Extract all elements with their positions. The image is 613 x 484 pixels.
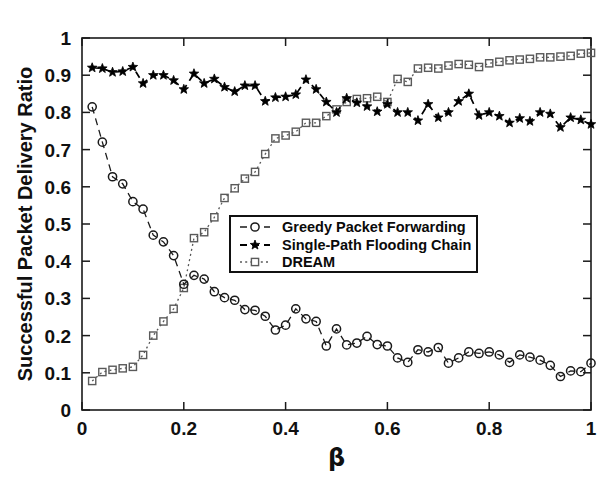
legend-marker-sample	[251, 223, 259, 231]
data-point-marker	[362, 101, 372, 110]
data-point-marker	[271, 326, 279, 334]
data-point-marker	[413, 116, 423, 125]
data-point-marker	[150, 332, 157, 339]
data-point-marker	[292, 128, 299, 135]
data-point-marker	[444, 107, 454, 116]
data-point-marker	[108, 67, 118, 76]
legend-label: DREAM	[282, 254, 335, 270]
y-tick-label: 0.2	[45, 326, 71, 347]
y-tick-label: 0	[60, 400, 71, 421]
data-point-marker	[394, 75, 401, 82]
data-point-marker	[363, 332, 371, 340]
data-point-marker	[372, 107, 382, 116]
y-axis-label: Successful Packet Delivery Ratio	[14, 67, 36, 382]
data-point-marker	[129, 198, 137, 206]
x-tick-label: 0.8	[476, 418, 502, 439]
x-tick-label: 1	[586, 418, 597, 439]
data-point-marker	[495, 111, 505, 120]
data-point-marker	[272, 135, 279, 142]
y-tick-label: 0.5	[45, 214, 72, 235]
data-point-marker	[281, 92, 291, 101]
data-point-marker	[515, 113, 525, 122]
x-tick-label: 0	[77, 418, 88, 439]
data-point-marker	[230, 87, 240, 96]
legend-label: Greedy Packet Forwarding	[282, 219, 466, 235]
legend-label: Single-Path Flooding Chain	[282, 237, 471, 253]
data-point-marker	[484, 107, 494, 116]
data-point-marker	[282, 321, 290, 329]
data-point-marker	[260, 96, 270, 105]
data-point-marker	[170, 252, 178, 260]
data-point-marker	[455, 354, 463, 362]
data-point-marker	[302, 119, 309, 126]
data-point-marker	[323, 113, 330, 120]
chart-plot: 00.10.20.30.40.50.60.70.80.9100.20.40.60…	[0, 0, 613, 484]
y-tick-label: 0.1	[45, 363, 72, 384]
y-tick-label: 0.7	[45, 140, 71, 161]
legend-marker-sample	[251, 258, 258, 265]
data-point-marker	[118, 66, 128, 75]
data-point-marker	[434, 113, 444, 122]
data-point-marker	[322, 342, 330, 350]
data-point-marker	[576, 115, 586, 124]
data-point-marker	[301, 75, 311, 84]
data-point-marker	[282, 132, 289, 139]
data-point-marker	[546, 109, 556, 118]
data-point-marker	[250, 81, 260, 90]
y-tick-label: 1	[60, 28, 71, 49]
x-tick-label: 0.2	[171, 418, 197, 439]
data-point-marker	[474, 110, 484, 119]
data-point-marker	[159, 70, 169, 79]
data-point-marker	[525, 116, 535, 125]
y-tick-label: 0.3	[45, 288, 71, 309]
y-tick-label: 0.4	[45, 251, 72, 272]
data-point-marker	[87, 63, 97, 72]
data-point-marker	[149, 70, 159, 79]
data-point-marker	[201, 229, 208, 236]
data-point-marker	[546, 361, 554, 369]
data-point-marker	[505, 118, 515, 127]
y-tick-label: 0.9	[45, 65, 71, 86]
legend: Greedy Packet ForwardingSingle-Path Floo…	[230, 216, 477, 272]
data-point-marker	[98, 64, 108, 73]
data-point-marker	[313, 119, 320, 126]
x-axis-label: β	[328, 444, 345, 472]
data-point-marker	[444, 359, 452, 367]
y-tick-label: 0.6	[45, 177, 71, 198]
data-point-marker	[139, 205, 147, 213]
series-1	[87, 62, 595, 131]
data-point-marker	[404, 358, 412, 366]
figure-canvas: 00.10.20.30.40.50.60.70.80.9100.20.40.60…	[0, 0, 613, 484]
x-tick-label: 0.6	[374, 418, 400, 439]
y-tick-label: 0.8	[45, 102, 71, 123]
data-point-marker	[403, 107, 413, 116]
data-point-marker	[271, 93, 281, 102]
data-point-marker	[139, 351, 146, 358]
data-point-marker	[128, 62, 138, 71]
x-tick-label: 0.4	[272, 418, 299, 439]
data-point-marker	[89, 377, 96, 384]
data-point-marker	[423, 99, 433, 108]
